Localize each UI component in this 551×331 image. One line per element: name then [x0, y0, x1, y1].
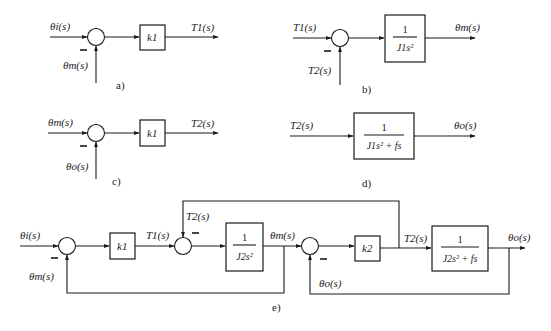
diagram-a-feedback-label: θm(s) — [63, 59, 88, 72]
diagram-e-t2-label: T2(s) — [404, 232, 428, 245]
diagram-e-theta-m-label: θm(s) — [270, 229, 295, 242]
diagram-e-t1-label: T1(s) — [146, 229, 170, 242]
diagram-a-k1-label: k1 — [147, 31, 157, 43]
diagram-e-inertia-block — [226, 223, 263, 271]
diagram-b-output-label: θm(s) — [455, 21, 480, 34]
diagram-e-inertia-block-numerator: 1 — [242, 232, 247, 243]
diagram-e-summing-junction-2 — [175, 238, 192, 255]
diagram-e-inertia-block-denominator: J2s² — [236, 251, 253, 262]
diagram-e-load-block — [432, 226, 488, 271]
diagram-e-output-label: θo(s) — [508, 231, 531, 244]
diagram-d-transfer-block — [354, 113, 414, 159]
diagram-d-output-label: θo(s) — [454, 119, 477, 132]
diagram-b: T1(s) T2(s) 1 J1s² θm(s) b) — [293, 15, 480, 96]
diagram-d: T2(s) 1 J1s² + fs θo(s) d) — [290, 113, 477, 190]
diagram-e-summing-junction-1 — [59, 238, 76, 255]
diagram-c-k1-label: k1 — [147, 127, 157, 139]
diagram-c: θm(s) θo(s) k1 T2(s) c) — [48, 116, 218, 188]
diagram-e-k1-label: k1 — [117, 240, 127, 252]
diagram-c-caption: c) — [112, 175, 121, 188]
diagram-b-caption: b) — [362, 83, 372, 96]
diagram-e-feedback1-label: θm(s) — [29, 270, 54, 283]
diagram-e-k2-label: k2 — [362, 242, 373, 254]
diagram-e-feedback2-label: T2(s) — [186, 210, 210, 223]
diagram-e-caption: e) — [272, 301, 281, 314]
diagram-c-output-label: T2(s) — [191, 117, 215, 130]
diagram-a-summing-junction — [88, 29, 105, 46]
diagram-d-block-numerator: 1 — [381, 122, 386, 133]
diagram-b-input-label: T1(s) — [293, 21, 317, 34]
diagram-d-block-denominator: J1s² + fs — [367, 140, 402, 151]
diagram-a-caption: a) — [116, 79, 125, 92]
diagram-d-input-label: T2(s) — [290, 119, 314, 132]
diagram-e-load-block-numerator: 1 — [457, 234, 462, 245]
diagram-b-summing-junction — [332, 30, 349, 47]
diagram-b-block-numerator: 1 — [402, 24, 407, 35]
diagram-b-feedback-label: T2(s) — [308, 64, 332, 77]
diagram-c-feedback-label: θo(s) — [66, 160, 89, 173]
diagram-e: θi(s) θm(s) k1 T1(s) T2(s) 1 J2s² θm(s) … — [20, 201, 531, 314]
diagram-a: θi(s) θm(s) k1 T1(s) a) — [50, 20, 218, 92]
diagram-e-summing-junction-3 — [302, 238, 319, 255]
diagram-d-caption: d) — [362, 177, 372, 190]
diagram-e-input-label: θi(s) — [20, 229, 40, 242]
diagram-b-block-denominator: J1s² — [397, 42, 414, 53]
diagram-a-output-label: T1(s) — [191, 21, 215, 34]
diagram-b-transfer-block — [385, 15, 425, 62]
diagram-a-input-label: θi(s) — [50, 20, 70, 33]
diagram-c-summing-junction — [88, 125, 105, 142]
block-diagram-canvas: θi(s) θm(s) k1 T1(s) a) T1(s) T2(s) 1 J1… — [0, 0, 551, 331]
diagram-e-load-block-denominator: J2s² + fs — [443, 253, 478, 264]
diagram-c-input-label: θm(s) — [48, 116, 73, 129]
diagram-e-feedback3-label: θo(s) — [319, 277, 342, 290]
